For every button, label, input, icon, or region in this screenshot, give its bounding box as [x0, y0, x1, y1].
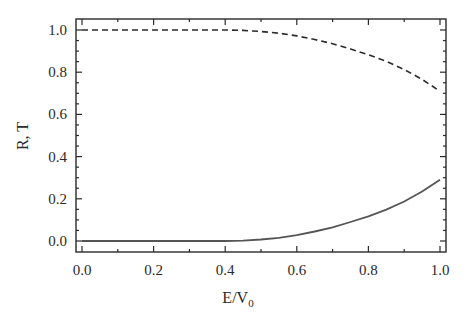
- y-tick-label: 1.0: [48, 22, 67, 38]
- x-tick-label: 1.0: [431, 262, 450, 278]
- line-chart: 0.00.20.40.60.81.0 0.00.20.40.60.81.0 E/…: [0, 0, 474, 316]
- y-axis-label: R, T: [14, 122, 31, 150]
- x-axis-label: E/V0: [222, 289, 254, 309]
- x-tick-label: 0.0: [73, 262, 92, 278]
- x-tick-label: 0.2: [144, 262, 163, 278]
- plot-lines: [82, 30, 440, 241]
- y-tick-label: 0.6: [48, 106, 67, 122]
- series-t-line: [82, 30, 440, 91]
- series-r-line: [82, 180, 440, 241]
- axis-ticks: [76, 19, 446, 252]
- y-tick-label: 0.0: [48, 233, 67, 249]
- plot-frame: [76, 19, 446, 252]
- x-tick-labels: 0.00.20.40.60.81.0: [73, 262, 450, 278]
- x-tick-label: 0.4: [216, 262, 235, 278]
- y-tick-label: 0.4: [48, 149, 67, 165]
- x-tick-label: 0.6: [287, 262, 306, 278]
- y-tick-label: 0.8: [48, 64, 67, 80]
- y-tick-labels: 0.00.20.40.60.81.0: [48, 22, 67, 249]
- x-tick-label: 0.8: [359, 262, 378, 278]
- y-tick-label: 0.2: [48, 191, 67, 207]
